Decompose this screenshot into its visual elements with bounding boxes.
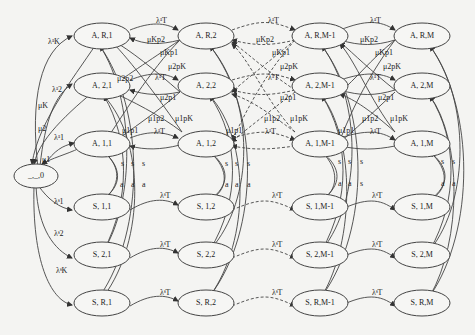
- svg-text:A, R,1: A, R,1: [91, 31, 112, 40]
- label-s: s: [225, 159, 228, 168]
- svg-text:S, 1,M-1: S, 1,M-1: [306, 202, 334, 211]
- state-S-R-M-1: S, R,M-1: [292, 290, 348, 316]
- label-lambda-s-2: λˢ2: [54, 229, 64, 238]
- svg-text:S, R,M-1: S, R,M-1: [305, 298, 335, 307]
- label-lambda-s-T-c34-1: λˢT: [372, 191, 383, 200]
- label-s: s: [247, 159, 250, 168]
- label-lambda-s-T-c23-1: λˢT: [272, 191, 283, 200]
- state-S-2-M: S, 2,M: [394, 242, 450, 268]
- label-lambda-s-1: λˢ1: [54, 197, 64, 206]
- svg-text:S, 2,M: S, 2,M: [411, 250, 433, 259]
- label-muK-p2-c23: μKp2: [256, 35, 274, 44]
- label-muK-p2: μKp2: [147, 35, 165, 44]
- label-mu2-p1-c34: μ2p1: [378, 93, 394, 102]
- svg-text:A, 1,2: A, 1,2: [196, 139, 216, 148]
- label-s: s: [441, 157, 444, 166]
- label-mu2-pK: μ2pK: [168, 62, 186, 71]
- state-S-R-2: S, R,2: [178, 290, 234, 316]
- label-s: s: [452, 157, 455, 166]
- state-S-2-M-1: S, 2,M-1: [292, 242, 348, 268]
- label-lambda-a-T-c34: λᵃT: [370, 16, 381, 25]
- label-mu-2: μ2: [38, 124, 46, 133]
- svg-text:_,_,0: _,_,0: [27, 171, 44, 180]
- state-S-2-1: S, 2,1: [74, 242, 130, 268]
- state-A-1-M: A, 1,M: [394, 131, 450, 157]
- label-lambda-s-T-1: λˢT: [160, 191, 171, 200]
- label-mu2-pK-c23: μ2pK: [280, 62, 298, 71]
- label-lambda-a-K: λᵃK: [48, 37, 60, 46]
- label-s: s: [131, 159, 134, 168]
- label-lambda-s-T-R: λˢT: [160, 288, 171, 297]
- label-lambda-a-T-c23-2: λᵃT: [268, 73, 279, 82]
- label-mu-K: μK: [38, 101, 48, 110]
- label-mu1-pK-c23: μ1pK: [290, 114, 308, 123]
- state-S-2-2: S, 2,2: [178, 242, 234, 268]
- label-lambda-a-2: λᵃ2: [52, 85, 62, 94]
- label-a: a: [338, 179, 342, 188]
- label-mu2-p1: μ2p1: [160, 93, 176, 102]
- label-a: a: [348, 179, 352, 188]
- svg-text:A, 1,1: A, 1,1: [92, 139, 112, 148]
- state-S-1-2: S, 1,2: [178, 194, 234, 220]
- label-mu1-p1-c23: μ1p1: [226, 126, 242, 135]
- label-mu1-p2-c34: μ1p2: [362, 114, 378, 123]
- label-a: a: [247, 180, 251, 189]
- state-A-R-M-1: A, R,M-1: [292, 23, 348, 49]
- state-A-2-M: A, 2,M: [394, 73, 450, 99]
- state-S-1-M: S, 1,M: [394, 194, 450, 220]
- state-S-R-1: S, R,1: [74, 290, 130, 316]
- label-mu2-p1-c23: μ2p1: [280, 93, 296, 102]
- svg-text:A, 2,M: A, 2,M: [411, 81, 434, 90]
- svg-text:A, 2,1: A, 2,1: [92, 81, 112, 90]
- svg-text:A, R,M-1: A, R,M-1: [305, 31, 336, 40]
- label-mu1-p2-c23: μ1p2: [264, 114, 280, 123]
- label-a: a: [441, 179, 445, 188]
- label-lambda-a-T: λᵃT: [156, 16, 167, 25]
- label-s: s: [360, 179, 363, 188]
- label-a: a: [452, 179, 456, 188]
- label-lambda-s-T-c23-R: λˢT: [272, 288, 283, 297]
- label-lambda-a-T-2: λᵃT: [155, 73, 166, 82]
- svg-text:S, 2,M-1: S, 2,M-1: [306, 250, 334, 259]
- label-a: a: [120, 180, 124, 189]
- svg-text:A, 2,2: A, 2,2: [196, 81, 216, 90]
- svg-text:S, 1,1: S, 1,1: [93, 202, 111, 211]
- label-muK-p2-c34: μKp2: [360, 35, 378, 44]
- state-A-2-M-1: A, 2,M-1: [292, 73, 348, 99]
- state-A-R-M: A, R,M: [394, 23, 450, 49]
- svg-text:S, R,M: S, R,M: [411, 298, 434, 307]
- label-s: s: [121, 159, 124, 168]
- svg-text:A, R,M: A, R,M: [410, 31, 434, 40]
- label-muK-p1: μKp1: [160, 48, 178, 57]
- svg-text:S, R,1: S, R,1: [92, 298, 112, 307]
- label-lambda-s-T-c34-R: λˢT: [372, 288, 383, 297]
- svg-text:A, R,2: A, R,2: [195, 31, 216, 40]
- svg-text:A, 1,M: A, 1,M: [411, 139, 434, 148]
- svg-text:S, 2,1: S, 2,1: [93, 250, 111, 259]
- label-mu1-p2: μ1p2: [148, 114, 164, 123]
- label-lambda-a-T-c23: λᵃT: [268, 16, 279, 25]
- label-s: s: [235, 159, 238, 168]
- label-lambda-a-T-1: λᵃT: [154, 127, 165, 136]
- label-lambda-a-T-c34-1: λᵃT: [370, 127, 381, 136]
- label-s: s: [348, 157, 351, 166]
- state-S-1-1: S, 1,1: [74, 194, 130, 220]
- state-A-R-2: A, R,2: [178, 23, 234, 49]
- label-lambda-s-T-c34-2: λˢT: [372, 240, 383, 249]
- state-S-1-M-1: S, 1,M-1: [292, 194, 348, 220]
- svg-text:S, 2,2: S, 2,2: [197, 250, 215, 259]
- label-mu2-p2: μ2p2: [117, 74, 133, 83]
- svg-text:S, 1,M: S, 1,M: [411, 202, 433, 211]
- svg-text:S, R,2: S, R,2: [196, 298, 216, 307]
- label-muK-p1-c23: μKp1: [272, 48, 290, 57]
- label-lambda-a-T-c23-1: λᵃT: [265, 127, 276, 136]
- label-lambda-s-T-2: λˢT: [160, 240, 171, 249]
- label-lambda-a-T-c34-2: λᵃT: [370, 73, 381, 82]
- state-origin: _,_,0: [14, 164, 58, 188]
- label-mu1-pK-c34: μ1pK: [390, 114, 408, 123]
- label-mu-1: μ1: [42, 155, 50, 164]
- state-A-2-2: A, 2,2: [178, 73, 234, 99]
- label-a: a: [225, 180, 229, 189]
- label-lambda-a-1: λᵃ1: [54, 133, 64, 142]
- state-S-R-M: S, R,M: [394, 290, 450, 316]
